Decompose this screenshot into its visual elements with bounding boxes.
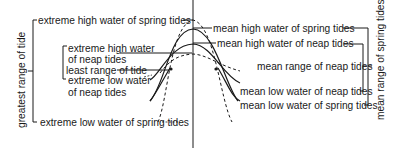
label-mean-high-water-neap: mean high water of neap tides <box>217 38 354 49</box>
label-extreme-high-water-spring: extreme high water of spring tides <box>38 15 191 26</box>
label-mean-range-neap: mean range of neap tides <box>257 61 373 72</box>
crossing-point-right <box>214 67 217 70</box>
label-extreme-high-water-neap-line1: extreme high water <box>68 43 155 54</box>
label-greatest-range-of-tide: greatest range of tide <box>16 32 27 128</box>
extreme-spring-dashed-curve <box>158 20 232 122</box>
label-mean-low-water-neap: mean low water of neap tides <box>240 86 373 97</box>
label-extreme-low-water-neap-line1: extreme low water <box>68 75 151 86</box>
label-mean-high-water-spring: mean high water of spring tides <box>213 23 355 34</box>
label-mean-range-of-spring-tides: mean range of spring tides <box>375 0 386 120</box>
label-mean-low-water-spring: mean low water of spring tides <box>240 100 378 111</box>
label-extreme-low-water-spring: extreme low water of spring tides <box>40 117 189 128</box>
label-extreme-low-water-neap-line2: of neap tides <box>68 87 126 98</box>
label-extreme-high-water-neap-line2: of neap tides <box>68 54 126 65</box>
